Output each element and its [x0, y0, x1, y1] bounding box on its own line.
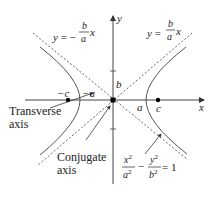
hyperbola-equation: x2 a2 − y2 b2 = 1 — [122, 153, 176, 180]
hyperbola-left-branch — [40, 47, 80, 155]
asymptote-left-den: a — [81, 33, 86, 44]
y-axis-label: y — [116, 12, 122, 24]
asymptote-right-lhs: y = — [146, 27, 161, 39]
conjugate-axis-label-line2: axis — [57, 163, 77, 177]
svg-text:= 1: = 1 — [162, 161, 176, 173]
hyperbola-diagram: y x −c −a b a c y = − b a x y = b a x Tr… — [0, 0, 213, 197]
origin-point — [111, 98, 116, 103]
conjugate-pointer-arrow — [86, 106, 110, 140]
conjugate-axis-label-line1: Conjugate — [57, 150, 106, 164]
asymptote-left-lhs: y = − — [52, 31, 76, 43]
asymptote-right-num: b — [168, 18, 173, 29]
asymptote-left-num: b — [82, 20, 87, 31]
label-neg-c: −c — [57, 87, 69, 99]
svg-text:a2: a2 — [123, 168, 132, 180]
svg-text:b2: b2 — [149, 168, 158, 180]
x-axis-label: x — [198, 101, 204, 113]
label-c: c — [156, 102, 161, 114]
transverse-axis-label-line2: axis — [9, 117, 29, 131]
asymptote-right-var: x — [175, 25, 181, 37]
svg-text:x2: x2 — [123, 153, 132, 165]
transverse-axis-label-line1: Transverse — [9, 104, 61, 118]
equation-pointer-arrow — [145, 134, 161, 154]
asymptote-left-var: x — [89, 26, 95, 38]
label-a: a — [137, 101, 143, 113]
label-neg-a: −a — [82, 87, 95, 99]
svg-text:y2: y2 — [149, 153, 158, 165]
svg-text:−: − — [138, 160, 144, 172]
label-b: b — [116, 78, 122, 90]
asymptote-right-den: a — [167, 31, 172, 42]
